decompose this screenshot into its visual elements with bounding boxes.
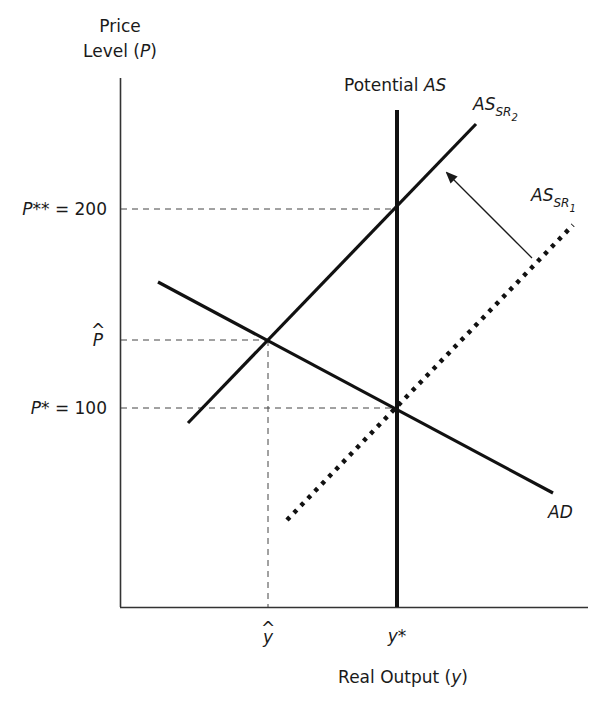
- as-sr1-label: ASSR1: [530, 185, 576, 214]
- p-hat-label: P: [93, 330, 104, 350]
- p-star-label: P* = 100: [31, 398, 107, 418]
- p-double-star-label: P** = 200: [22, 199, 107, 219]
- ad-label: AD: [547, 502, 573, 522]
- potential-as-label: Potential AS: [344, 75, 447, 95]
- as-sr2-curve: [188, 124, 476, 423]
- y-axis-title-line2: Level (P): [83, 41, 157, 61]
- x-axis-title: Real Output (y): [338, 667, 468, 687]
- as-sr2-label: ASSR2: [472, 94, 518, 123]
- y-star-label: y*: [387, 626, 407, 646]
- y-hat-label: y: [262, 627, 274, 647]
- y-axis-title-line1: Price: [99, 16, 140, 36]
- shift-arrow: [447, 173, 532, 258]
- aggregate-supply-demand-chart: Price Level (P) Potential AS ASSR2 ASSR1…: [0, 0, 592, 703]
- ad-curve: [158, 282, 553, 493]
